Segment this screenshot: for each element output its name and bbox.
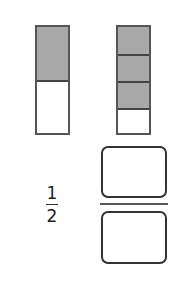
answer-fraction-bar [100,203,168,205]
given-denominator: 2 [42,208,62,225]
bar-segment-shaded [37,27,68,80]
bar-segment-unshaded [37,80,68,133]
given-numerator: 1 [42,185,62,202]
bar-segment-shaded [118,81,149,108]
given-fraction-bar [46,204,58,205]
numerator-answer-box[interactable] [101,146,167,198]
bar-segment-unshaded [118,108,149,133]
bar-segment-shaded [118,54,149,81]
fraction-bar-halves [35,25,70,135]
bar-segment-shaded [118,27,149,54]
fraction-bar-fourths [116,25,151,135]
denominator-answer-box[interactable] [101,211,167,264]
